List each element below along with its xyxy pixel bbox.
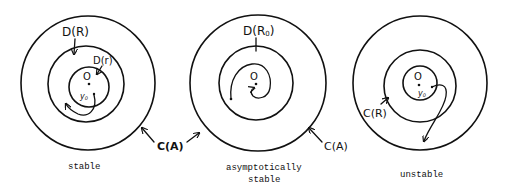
arrow-d-small-r-icon [97, 66, 102, 74]
caption-stable-2: stable [248, 175, 280, 185]
label-origin: O [83, 71, 91, 82]
circle-c-r [384, 50, 456, 122]
origin-dot [418, 84, 421, 87]
arrow-c-a-right-icon [309, 128, 322, 142]
caption-unstable: unstable [400, 170, 443, 180]
panel-unstable: O y0 C(R) unstable [353, 16, 487, 180]
label-d-r0: D(R0) [243, 24, 274, 38]
outer-circle-c-a [353, 16, 487, 150]
panel-stable: D(R) D(r) O y0 stable C(A) [21, 16, 184, 172]
origin-dot [255, 83, 258, 86]
caption-stable: stable [68, 162, 100, 172]
label-d-small-r: D(r) [93, 55, 113, 66]
label-origin: O [250, 71, 258, 82]
label-y0: y0 [417, 89, 426, 98]
arrow-c-a-icon [142, 128, 154, 142]
panel-asymptotically-stable: D(R0) O C(A) asymptotically stable [187, 15, 348, 185]
label-c-a-right: C(A) [324, 140, 348, 153]
stability-diagram: D(R) D(r) O y0 stable C(A) D(R0) O C(A) … [0, 0, 510, 192]
label-c-a: C(A) [157, 140, 184, 153]
label-origin: O [414, 71, 422, 82]
caption-asymptotically: asymptotically [226, 163, 302, 173]
arrow-c-a-left-icon [187, 133, 199, 142]
origin-dot [88, 83, 91, 86]
label-d-big-r: D(R) [62, 25, 89, 39]
arrow-d-big-r-icon [74, 39, 75, 54]
label-y0: y0 [79, 92, 88, 101]
label-c-r: C(R) [363, 107, 387, 120]
